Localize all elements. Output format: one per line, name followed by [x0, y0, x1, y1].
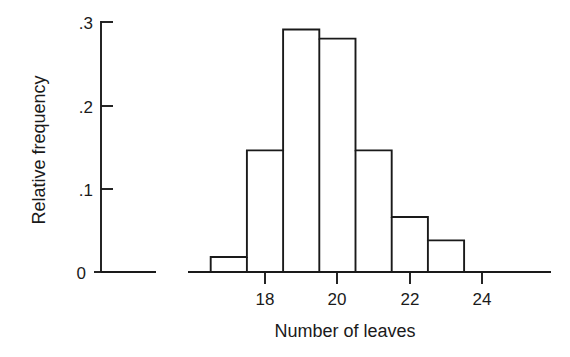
y-tick-label-0: 0	[77, 264, 86, 283]
y-tick-label-02: .2	[79, 98, 93, 117]
x-axis-label: Number of leaves	[274, 321, 415, 341]
histogram-outline	[211, 30, 464, 273]
x-tick-label-18: 18	[256, 290, 275, 309]
histogram-plot: .3 .2 .1 0 Relative frequency 18 20 22 2…	[0, 0, 570, 357]
histogram-bars	[211, 30, 464, 273]
y-tick-label-03: .3	[79, 14, 93, 33]
y-axis-group: .3 .2 .1 0	[77, 14, 156, 283]
x-tick-label-24: 24	[473, 290, 492, 309]
x-axis-group: 18 20 22 24	[188, 272, 551, 309]
x-tick-label-22: 22	[401, 290, 420, 309]
y-axis-label: Relative frequency	[29, 75, 49, 224]
x-tick-label-20: 20	[328, 290, 347, 309]
histogram-figure: .3 .2 .1 0 Relative frequency 18 20 22 2…	[0, 0, 570, 357]
y-tick-label-01: .1	[79, 181, 93, 200]
